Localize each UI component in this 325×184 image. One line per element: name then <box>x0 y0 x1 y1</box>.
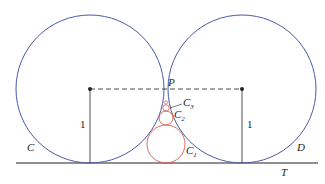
label-C1: C1 <box>186 144 197 159</box>
center-left-dot <box>88 87 92 91</box>
circle-C4 <box>164 101 167 104</box>
label-D: D <box>297 141 305 153</box>
circle-C3 <box>163 105 169 111</box>
circle-C2 <box>159 111 173 125</box>
label-radius-left: 1 <box>80 118 86 130</box>
label-C2: C2 <box>174 108 185 123</box>
circle-C1 <box>147 125 185 163</box>
diagram: P C3 C2 C1 C D T 1 1 <box>0 0 325 184</box>
label-T: T <box>281 166 287 178</box>
label-C: C <box>27 141 34 153</box>
label-radius-right: 1 <box>247 118 253 130</box>
label-P: P <box>168 76 175 88</box>
center-right-dot <box>240 87 244 91</box>
diagram-svg <box>0 0 325 184</box>
